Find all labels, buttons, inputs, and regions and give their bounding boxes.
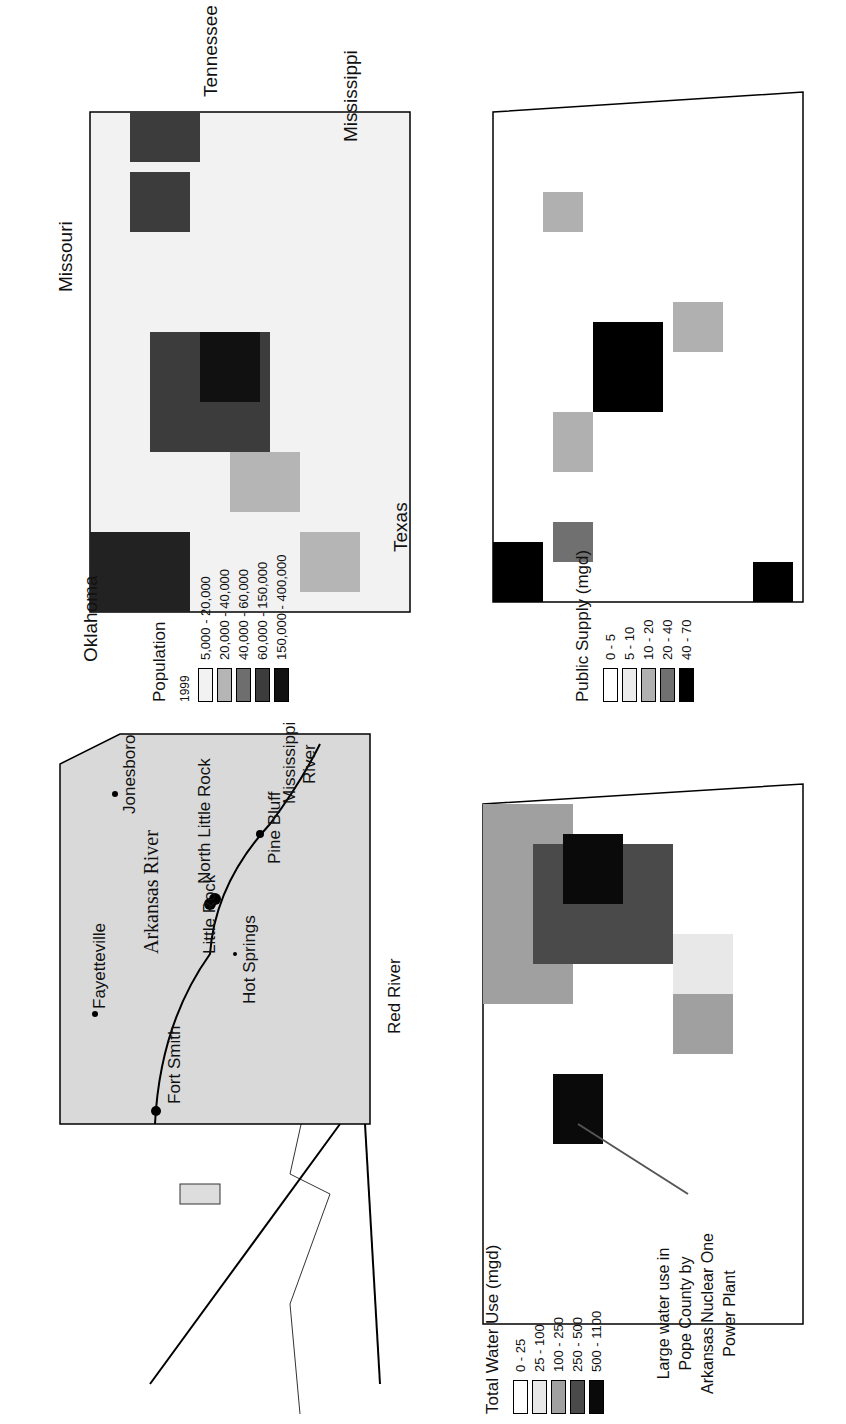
label-fayetteville: Fayetteville <box>90 923 110 1009</box>
label-oklahoma: Oklahoma <box>80 575 102 662</box>
label-red-river: Red River <box>385 958 405 1034</box>
population-legend-item: 20,000 - 40,000 <box>215 554 234 702</box>
label-tennessee: Tennessee <box>200 5 222 97</box>
public-supply-legend-item: 40 - 70 <box>677 550 696 702</box>
water-use-legend: Total Water Use (mgd) 0 - 25 25 - 100 10… <box>483 1245 606 1414</box>
water-use-legend-item: 25 - 100 <box>530 1245 549 1414</box>
legend-swatch <box>660 668 675 702</box>
legend-swatch <box>236 668 251 702</box>
legend-swatch <box>641 668 656 702</box>
label-mississippi-river-1: Mississippi <box>280 722 300 804</box>
legend-swatch <box>570 1380 585 1414</box>
figure-stage: Fayetteville Jonesboro Arkansas River Fo… <box>0 0 846 1424</box>
legend-swatch <box>622 668 637 702</box>
legend-swatch <box>589 1380 604 1414</box>
label-north-little-rock: North Little Rock <box>195 758 215 884</box>
water-use-legend-item: 0 - 25 <box>511 1245 530 1414</box>
label-jonesboro: Jonesboro <box>120 735 140 814</box>
public-supply-legend-item: 10 - 20 <box>639 550 658 702</box>
legend-swatch <box>551 1380 566 1414</box>
location-map-panel: Fayetteville Jonesboro Arkansas River Fo… <box>0 712 423 1424</box>
population-legend-item: 40,000 - 60,000 <box>234 554 253 702</box>
water-use-legend-title: Total Water Use (mgd) <box>483 1245 503 1414</box>
label-hot-springs: Hot Springs <box>240 915 260 1004</box>
label-mississippi: Mississippi <box>340 50 362 142</box>
population-map-panel: Missouri Tennessee Mississippi Texas Okl… <box>0 0 423 712</box>
annotation-note: Large water use in Pope County by Arkans… <box>653 1233 741 1394</box>
legend-swatch <box>217 668 232 702</box>
public-supply-legend-item: 0 - 5 <box>601 550 620 702</box>
population-legend-item: 60,000 - 150,000 <box>253 554 272 702</box>
public-supply-map-panel: Public Supply (mgd) 0 - 5 5 - 10 10 - 20… <box>423 0 846 712</box>
water-use-legend-item: 250 - 500 <box>568 1245 587 1414</box>
legend-swatch <box>679 668 694 702</box>
population-legend: Population 1999 5,000 - 20,000 20,000 - … <box>150 554 291 702</box>
public-supply-legend-item: 5 - 10 <box>620 550 639 702</box>
public-supply-legend: Public Supply (mgd) 0 - 5 5 - 10 10 - 20… <box>573 550 696 702</box>
population-legend-item: 5,000 - 20,000 <box>196 554 215 702</box>
legend-swatch <box>274 668 289 702</box>
legend-swatch <box>198 668 213 702</box>
legend-swatch <box>513 1380 528 1414</box>
label-mississippi-river-2: River <box>300 744 320 784</box>
legend-swatch <box>255 668 270 702</box>
public-supply-legend-title: Public Supply (mgd) <box>573 550 593 702</box>
label-fort-smith: Fort Smith <box>165 1026 185 1104</box>
population-legend-title: Population <box>150 554 170 702</box>
total-water-use-map-panel: Total Water Use (mgd) 0 - 25 25 - 100 10… <box>423 712 846 1424</box>
public-supply-legend-item: 20 - 40 <box>658 550 677 702</box>
water-use-legend-item: 500 - 1100 <box>587 1245 606 1414</box>
legend-swatch <box>532 1380 547 1414</box>
label-texas: Texas <box>390 502 412 552</box>
label-missouri: Missouri <box>55 221 77 292</box>
population-legend-item: 150,000 - 400,000 <box>272 554 291 702</box>
legend-swatch <box>603 668 618 702</box>
population-legend-year: 1999 <box>178 554 192 702</box>
label-arkansas-river: Arkansas River <box>140 830 163 954</box>
water-use-legend-item: 100 - 250 <box>549 1245 568 1414</box>
label-little-rock: Little Rock <box>200 875 220 954</box>
